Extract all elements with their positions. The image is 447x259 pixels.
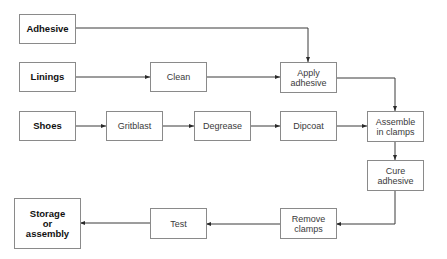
node-linings: Linings (19, 62, 76, 92)
node-assemble-in-clamps: Assemble in clamps (367, 111, 424, 142)
edge-cure-remove (336, 190, 395, 224)
node-cure-adhesive: Cure adhesive (367, 160, 424, 191)
node-gritblast: Gritblast (106, 111, 163, 141)
node-storage-or-assembly: Storage or assembly (14, 198, 81, 249)
edge-adhesive-apply (75, 28, 308, 62)
edge-apply-assemble (336, 78, 395, 111)
node-adhesive: Adhesive (19, 14, 76, 44)
node-remove-clamps: Remove clamps (280, 208, 337, 239)
node-apply-adhesive: Apply adhesive (280, 62, 337, 93)
node-degrease: Degrease (194, 111, 251, 141)
node-test: Test (150, 208, 207, 239)
node-dipcoat: Dipcoat (280, 111, 337, 141)
node-clean: Clean (150, 62, 207, 92)
node-shoes: Shoes (19, 111, 76, 141)
